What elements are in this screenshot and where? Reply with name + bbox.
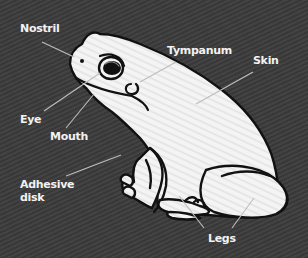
nostril-icon [80,59,84,63]
frog-illustration [0,0,308,258]
label-legs: Legs [208,232,236,245]
label-eye: Eye [20,113,41,126]
label-mouth: Mouth [50,130,88,143]
label-nostril: Nostril [20,22,59,35]
label-skin: Skin [253,54,279,67]
leader-adhesive-disk [66,155,121,176]
label-adhesive-disk: Adhesive disk [20,178,74,204]
label-tympanum: Tympanum [167,44,232,57]
leader-mouth [66,94,94,128]
frog-anatomy-diagram: Nostril Tympanum Skin Eye Mouth Adhesive… [0,0,308,258]
leader-nostril [42,42,74,57]
